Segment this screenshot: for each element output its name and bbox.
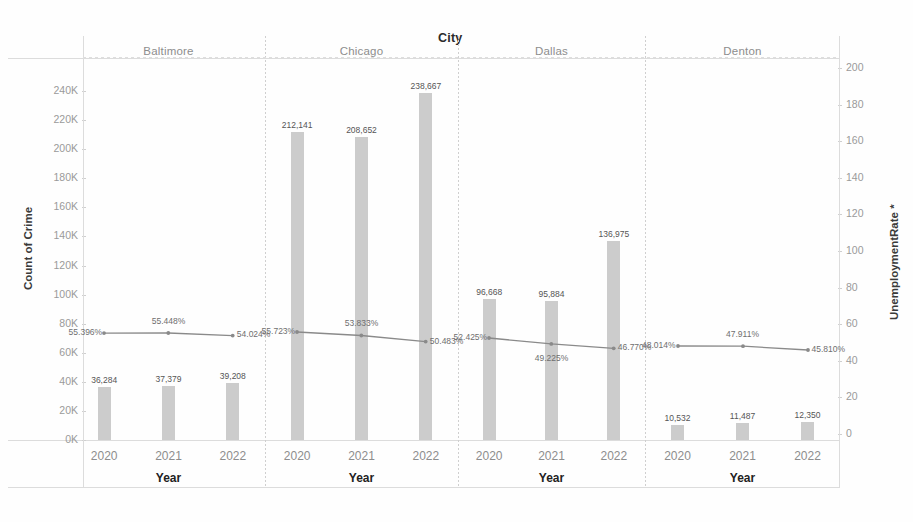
bar-value-label: 36,284 (72, 375, 136, 385)
right-axis-tick: 80 (846, 281, 886, 293)
left-axis-tick: 220K (22, 113, 78, 125)
bar[interactable] (291, 132, 304, 440)
left-axis-tick: 200K (22, 142, 78, 154)
right-axis-tick: 140 (846, 171, 886, 183)
left-axis-tick: 60K (22, 346, 78, 358)
year-tick-label[interactable]: 2020 (652, 449, 704, 463)
year-tick-label[interactable]: 2022 (588, 449, 640, 463)
panel-title-dallas: Dallas (458, 45, 645, 57)
left-axis-tick: 240K (22, 84, 78, 96)
bar[interactable] (355, 137, 368, 440)
year-tick-label[interactable]: 2022 (400, 449, 452, 463)
rate-value-label: 55.396% (46, 327, 102, 337)
left-axis-tick: 180K (22, 171, 78, 183)
left-axis-tick: 40K (22, 375, 78, 387)
panel-title-denton: Denton (645, 45, 840, 57)
right-axis-title: UnemploymentRate * (888, 204, 900, 320)
year-tick-label[interactable]: 2022 (207, 449, 259, 463)
bar[interactable] (419, 93, 432, 440)
x-axis-title: Year (645, 471, 840, 485)
bar-value-label: 12,350 (776, 410, 840, 420)
year-tick-label[interactable]: 2021 (717, 449, 769, 463)
bar-value-label: 39,208 (201, 371, 265, 381)
plot-bottom-rule (8, 440, 840, 441)
year-tick-label[interactable]: 2021 (143, 449, 195, 463)
right-axis-tick: 0 (846, 427, 886, 439)
left-axis-tick: 0K (22, 433, 78, 445)
bar-value-label: 37,379 (137, 374, 201, 384)
left-axis-line (83, 36, 84, 488)
panel-divider (458, 36, 459, 488)
axis-bottom-rule (8, 487, 840, 488)
bar-value-label: 96,668 (457, 287, 521, 297)
bar-value-label: 95,884 (520, 289, 584, 299)
year-tick-label[interactable]: 2020 (463, 449, 515, 463)
rate-value-label: 48.014% (620, 340, 676, 350)
bar[interactable] (545, 301, 558, 440)
right-axis-tick: 180 (846, 98, 886, 110)
rate-value-label: 55.723% (239, 326, 295, 336)
rate-value-label: 55.448% (137, 316, 201, 326)
x-axis-title: Year (458, 471, 645, 485)
right-axis-tick: 160 (846, 134, 886, 146)
bar[interactable] (162, 386, 175, 440)
x-axis-title: Year (72, 471, 265, 485)
year-tick-label[interactable]: 2020 (271, 449, 323, 463)
rate-value-label: 45.810% (812, 344, 872, 354)
rate-value-label: 47.911% (711, 329, 775, 339)
year-tick-label[interactable]: 2021 (336, 449, 388, 463)
right-axis-tick: 120 (846, 207, 886, 219)
year-tick-label[interactable]: 2022 (782, 449, 834, 463)
bar-value-label: 208,652 (330, 125, 394, 135)
panel-title-baltimore: Baltimore (72, 45, 265, 57)
year-tick-label[interactable]: 2020 (78, 449, 130, 463)
bar[interactable] (226, 383, 239, 440)
bar[interactable] (736, 423, 749, 440)
header-guide (83, 57, 839, 58)
year-tick-label[interactable]: 2021 (526, 449, 578, 463)
right-axis-tick: 100 (846, 244, 886, 256)
right-axis-tick: 20 (846, 390, 886, 402)
left-axis-tick: 20K (22, 404, 78, 416)
bar-value-label: 212,141 (265, 120, 329, 130)
bar-value-label: 11,487 (711, 411, 775, 421)
bar[interactable] (98, 387, 111, 440)
bar[interactable] (801, 422, 814, 440)
panel-divider (265, 36, 266, 488)
bar-value-label: 238,667 (394, 81, 458, 91)
header-rule (8, 58, 840, 59)
bar[interactable] (483, 299, 496, 440)
right-axis-line (839, 36, 840, 488)
bar[interactable] (671, 425, 684, 440)
left-axis-title: Count of Crime (22, 207, 34, 290)
right-axis-tick: 60 (846, 317, 886, 329)
panel-title-chicago: Chicago (265, 45, 458, 57)
rate-value-label: 52.425% (431, 332, 487, 342)
chart-canvas: City 0K20K40K60K80K100K120K140K160K180K2… (0, 0, 913, 522)
right-axis-tick: 200 (846, 61, 886, 73)
bar-value-label: 10,532 (646, 413, 710, 423)
x-axis-title: Year (265, 471, 458, 485)
rate-value-label: 49.225% (520, 353, 584, 363)
right-axis-tick: 40 (846, 354, 886, 366)
bar-value-label: 136,975 (582, 229, 646, 239)
rate-value-label: 53.833% (330, 318, 394, 328)
